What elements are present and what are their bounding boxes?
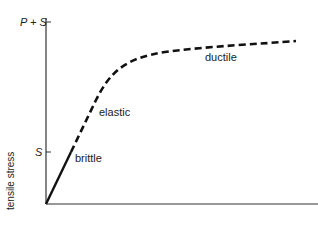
label-brittle: brittle <box>75 152 102 164</box>
tick-label-p-plus-s: P + S <box>20 16 47 28</box>
y-axis-label: tensile stress <box>5 152 16 210</box>
brittle-curve <box>46 152 71 204</box>
stress-diagram: P + S S tensile stress brittle elastic d… <box>0 0 318 229</box>
label-elastic: elastic <box>99 106 131 118</box>
tick-label-s: S <box>35 146 43 158</box>
elastic-ductile-curve <box>71 41 296 152</box>
label-ductile: ductile <box>205 51 237 63</box>
